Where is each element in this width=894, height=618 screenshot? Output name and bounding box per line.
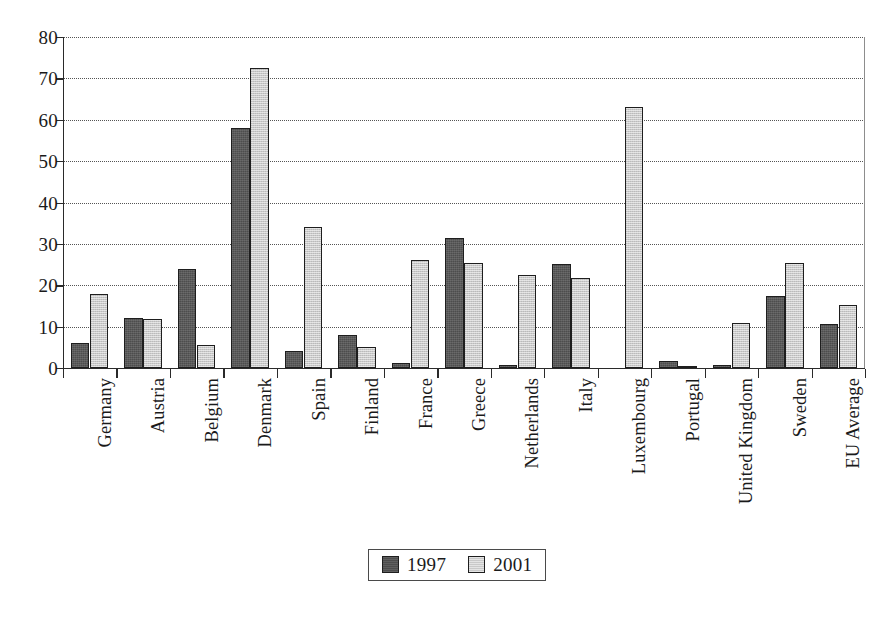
bar-united-kingdom-1997 <box>713 365 732 368</box>
bar-group <box>330 37 383 368</box>
bar-portugal-1997 <box>659 361 678 368</box>
x-axis-label-greece: Greece <box>464 378 483 431</box>
x-axis-label-austria: Austria <box>143 378 162 433</box>
x-axis-label-germany: Germany <box>90 378 109 448</box>
bar-austria-2001 <box>143 319 162 368</box>
x-axis-tick <box>812 369 813 378</box>
x-axis-tick <box>437 369 438 378</box>
y-axis-tick-label: 60 <box>39 110 58 129</box>
x-axis-label-italy: Italy <box>571 378 590 412</box>
bar-denmark-1997 <box>231 128 250 368</box>
bar-group <box>384 37 437 368</box>
x-axis-category-labels: GermanyAustriaBelgiumDenmarkSpainFinland… <box>63 378 865 528</box>
y-axis-tick-label: 40 <box>39 193 58 212</box>
bar-finland-2001 <box>357 347 376 368</box>
bar-italy-1997 <box>552 264 571 368</box>
bar-group <box>223 37 276 368</box>
bar-france-1997 <box>392 363 411 368</box>
x-axis-tick <box>170 369 171 378</box>
bar-germany-2001 <box>90 294 109 368</box>
bar-group <box>598 37 651 368</box>
bar-chart-figure: 01020304050607080 GermanyAustriaBelgiumD… <box>0 0 894 618</box>
x-axis-label-france: France <box>411 378 430 429</box>
y-axis-labels: 01020304050607080 <box>22 27 58 368</box>
x-axis-label-belgium: Belgium <box>197 378 216 442</box>
x-axis-tick <box>63 369 64 378</box>
chart-legend: 1997 2001 <box>368 549 546 581</box>
bar-group <box>437 37 490 368</box>
bar-spain-2001 <box>304 227 323 368</box>
bars-layer <box>63 37 865 368</box>
bar-united-kingdom-2001 <box>732 323 751 369</box>
bar-austria-1997 <box>124 318 143 368</box>
bar-luxembourg-2001 <box>625 107 644 368</box>
bar-denmark-2001 <box>250 68 269 368</box>
bar-netherlands-1997 <box>499 365 518 368</box>
x-axis-tick <box>384 369 385 378</box>
x-axis-label-denmark: Denmark <box>250 378 269 448</box>
bar-group <box>277 37 330 368</box>
x-axis-label-sweden: Sweden <box>785 378 804 437</box>
legend-label-2001: 2001 <box>493 555 532 574</box>
plot-area: 01020304050607080 GermanyAustriaBelgiumD… <box>0 0 894 618</box>
bar-sweden-2001 <box>785 263 804 368</box>
y-axis-tick-label: 10 <box>39 317 58 336</box>
x-axis-tick <box>544 369 545 378</box>
bar-group <box>491 37 544 368</box>
x-axis-label-eu-average: EU Average <box>838 378 857 469</box>
bar-france-2001 <box>411 260 430 368</box>
bar-belgium-1997 <box>178 269 197 368</box>
x-axis-tick <box>223 369 224 378</box>
y-axis-tick-label: 30 <box>39 234 58 253</box>
x-axis-label-luxembourg: Luxembourg <box>624 378 643 474</box>
legend-label-1997: 1997 <box>407 555 446 574</box>
y-axis-tick-label: 50 <box>39 152 58 171</box>
x-axis-tick <box>116 369 117 378</box>
y-axis-tick-label: 80 <box>39 28 58 47</box>
x-axis-tick <box>330 369 331 378</box>
x-axis-label-spain: Spain <box>304 378 323 421</box>
bar-eu-average-1997 <box>820 324 839 368</box>
light-swatch-icon <box>468 556 485 573</box>
bar-group <box>705 37 758 368</box>
dark-swatch-icon <box>382 556 399 573</box>
x-axis-label-netherlands: Netherlands <box>517 378 536 468</box>
x-axis-label-united-kingdom: United Kingdom <box>731 378 750 504</box>
x-axis-tick <box>651 369 652 378</box>
x-axis-tick <box>865 369 866 378</box>
bar-group <box>116 37 169 368</box>
bar-belgium-2001 <box>197 345 216 368</box>
bar-group <box>812 37 865 368</box>
bar-group <box>758 37 811 368</box>
bar-greece-1997 <box>445 238 464 368</box>
y-axis-tick-label: 70 <box>39 69 58 88</box>
x-axis-tick <box>491 369 492 378</box>
legend-item-1997: 1997 <box>382 555 446 574</box>
y-axis-tick-label: 20 <box>39 276 58 295</box>
bar-netherlands-2001 <box>518 275 537 368</box>
bar-italy-2001 <box>571 278 590 368</box>
legend-item-2001: 2001 <box>468 555 532 574</box>
bar-germany-1997 <box>71 343 90 368</box>
bar-spain-1997 <box>285 351 304 368</box>
bar-finland-1997 <box>338 335 357 368</box>
bar-group <box>63 37 116 368</box>
x-axis-tick <box>277 369 278 378</box>
x-axis-label-portugal: Portugal <box>678 378 697 442</box>
bar-group <box>651 37 704 368</box>
bar-eu-average-2001 <box>839 305 858 368</box>
bar-group <box>544 37 597 368</box>
x-axis-tick <box>758 369 759 378</box>
x-axis-label-finland: Finland <box>357 378 376 435</box>
x-axis-tick <box>598 369 599 378</box>
bar-sweden-1997 <box>766 296 785 368</box>
x-axis-line <box>63 368 865 369</box>
bar-group <box>170 37 223 368</box>
y-axis-tick-label: 0 <box>48 359 58 378</box>
x-axis-tick <box>705 369 706 378</box>
bar-portugal-2001 <box>678 366 697 368</box>
bar-greece-2001 <box>464 263 483 369</box>
